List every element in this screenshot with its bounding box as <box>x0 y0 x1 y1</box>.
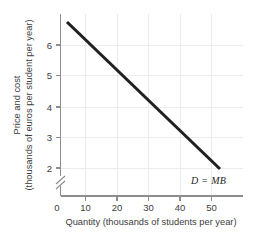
vertical-gridlines <box>86 14 212 196</box>
y-tick-labels: 6 5 4 3 2 <box>47 40 52 174</box>
y-tick-label-3: 3 <box>47 132 52 143</box>
y-axis-title-line1: Price and cost <box>12 75 22 134</box>
demand-curve <box>67 22 220 169</box>
y-tick-marks <box>56 45 61 168</box>
y-tick-label-4: 4 <box>47 102 52 113</box>
x-tick-label-10: 10 <box>80 202 91 213</box>
x-tick-label-50: 50 <box>206 202 217 213</box>
demand-curve-chart: 6 5 4 3 2 0 10 20 30 40 50 D = MB Quanti… <box>0 0 253 234</box>
horizontal-gridlines <box>60 45 243 168</box>
x-tick-marks <box>86 196 212 201</box>
x-tick-label-20: 20 <box>112 202 123 213</box>
chart-figure: 6 5 4 3 2 0 10 20 30 40 50 D = MB Quanti… <box>0 0 253 234</box>
y-tick-label-5: 5 <box>47 70 52 81</box>
x-tick-label-30: 30 <box>143 202 154 213</box>
x-tick-labels: 10 20 30 40 50 <box>80 202 217 213</box>
x-tick-label-40: 40 <box>175 202 186 213</box>
y-tick-label-2: 2 <box>47 163 52 174</box>
y-tick-label-6: 6 <box>47 40 52 51</box>
origin-label: 0 <box>54 202 59 213</box>
demand-curve-label: D = MB <box>190 175 226 186</box>
x-axis-title: Quantity (thousands of students per year… <box>65 217 236 227</box>
y-axis-title-line2: (thousands of euros per student per year… <box>24 19 34 190</box>
